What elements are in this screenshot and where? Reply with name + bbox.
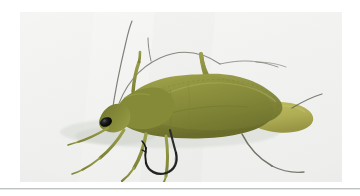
bottom-separator-shadow bbox=[0, 189, 360, 190]
page-root bbox=[0, 0, 360, 196]
hopper-fly-illustration bbox=[20, 12, 342, 182]
hindleg-upper-right bbox=[292, 94, 322, 108]
hopper-fly-photo bbox=[20, 12, 342, 182]
